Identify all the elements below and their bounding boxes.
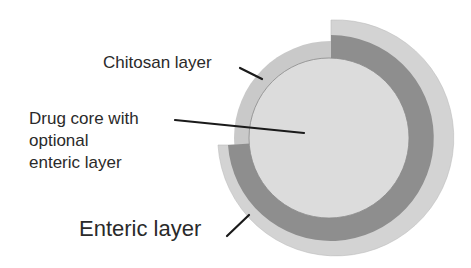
drug-core-label-line-3: enteric layer [29, 152, 169, 174]
enteric-leader-line [227, 215, 249, 236]
drug-core-label-line-2: optional [29, 130, 169, 152]
drug-core-label-line-1: Drug core with [29, 108, 169, 130]
chitosan-layer-label: Chitosan layer [103, 54, 212, 71]
drug-core [249, 58, 409, 218]
enteric-layer-label: Enteric layer [79, 218, 201, 240]
drug-core-label: Drug core with optional enteric layer [29, 108, 169, 174]
